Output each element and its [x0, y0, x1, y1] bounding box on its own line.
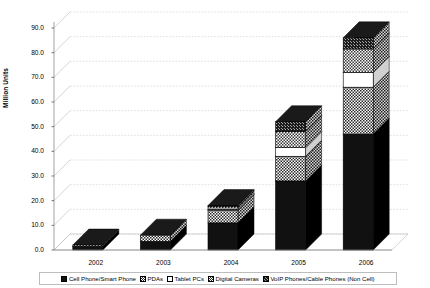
legend-label: VoIP Phones/Cable Phones (Non Cell) [270, 275, 374, 282]
legend-label: Cell Phone/Smart Phone [69, 275, 136, 282]
legend-label: PDAs [147, 275, 163, 282]
bar-segment [343, 118, 389, 250]
legend-swatch-icon [208, 276, 214, 282]
chart-legend: Cell Phone/Smart PhonePDAsTablet PCsDigi… [39, 272, 397, 285]
x-tick-label: 2006 [336, 259, 396, 266]
legend-item[interactable]: PDAs [140, 275, 163, 282]
x-tick-label: 2005 [269, 259, 329, 266]
legend-item[interactable]: Tablet PCs [167, 275, 204, 282]
legend-item[interactable]: VoIP Phones/Cable Phones (Non Cell) [263, 275, 375, 282]
x-tick-label: 2003 [133, 259, 193, 266]
legend-swatch-icon [263, 276, 269, 282]
bars-layer [73, 22, 389, 250]
legend-swatch-icon [140, 276, 146, 282]
x-tick-label: 2002 [66, 259, 126, 266]
chart-container: Million Units 0.010.020.030.040.050.060.… [0, 0, 430, 288]
legend-item[interactable]: Cell Phone/Smart Phone [61, 275, 136, 282]
x-tick-label: 2004 [201, 259, 261, 266]
plot-area [0, 0, 430, 288]
legend-label: Tablet PCs [175, 275, 204, 282]
legend-label: Digital Cameras [216, 275, 259, 282]
legend-swatch-icon [61, 276, 67, 282]
legend-item[interactable]: Digital Cameras [208, 275, 259, 282]
legend-swatch-icon [167, 276, 173, 282]
